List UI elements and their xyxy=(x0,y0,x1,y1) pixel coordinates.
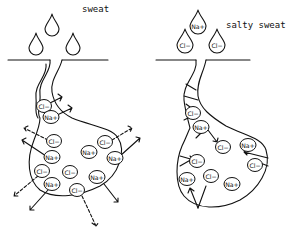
sweat-gland-diagram: sweat salty sweat Na+Cl−Cl− Cl−Na+Cl−Na+… xyxy=(0,0,292,232)
svg-text:Cl−: Cl− xyxy=(48,138,59,145)
chloride-ion: Cl− xyxy=(204,170,219,183)
sodium-ion: Na+ xyxy=(44,151,60,164)
sodium-ion: Na+ xyxy=(81,146,97,159)
svg-text:Na+: Na+ xyxy=(180,176,194,183)
chloride-ion: Cl− xyxy=(47,135,62,148)
svg-text:Na+: Na+ xyxy=(108,155,122,162)
svg-text:Cl−: Cl− xyxy=(191,158,202,165)
svg-text:Cl−: Cl− xyxy=(36,168,47,175)
chloride-ion: Cl− xyxy=(186,107,201,120)
svg-text:Na+: Na+ xyxy=(194,124,208,131)
sodium-ion: Na+ xyxy=(240,139,256,152)
svg-text:Na+: Na+ xyxy=(45,181,59,188)
sweat-drop: Cl− xyxy=(209,29,225,53)
chloride-ion: Cl− xyxy=(190,155,205,168)
svg-text:Na+: Na+ xyxy=(90,174,104,181)
svg-text:Cl−: Cl− xyxy=(217,144,228,151)
sodium-ion: Na+ xyxy=(193,121,209,134)
svg-text:Cl−: Cl− xyxy=(64,169,75,176)
sodium-ion: Na+ xyxy=(107,152,123,165)
sodium-ion: Na+ xyxy=(89,171,105,184)
svg-text:Na+: Na+ xyxy=(45,154,59,161)
svg-text:Na+: Na+ xyxy=(225,181,239,188)
sweat-drop xyxy=(66,33,80,55)
svg-text:Cl−: Cl− xyxy=(187,110,198,117)
sweat-drop: Na+ xyxy=(190,10,206,34)
chloride-ion: Cl− xyxy=(70,184,85,197)
chloride-ion: Cl− xyxy=(216,141,231,154)
chloride-ion: Cl− xyxy=(63,166,78,179)
sodium-ion: Na+ xyxy=(44,178,60,191)
sweat-drop xyxy=(45,14,59,36)
svg-text:Na+: Na+ xyxy=(82,149,96,156)
chloride-ion: Cl− xyxy=(98,136,113,149)
svg-text:Cl−: Cl− xyxy=(205,173,216,180)
svg-text:Cl−: Cl− xyxy=(38,103,49,110)
chloride-ion: Cl− xyxy=(248,159,263,172)
sodium-ion: Na+ xyxy=(179,173,195,186)
svg-text:Cl−: Cl− xyxy=(71,187,82,194)
svg-text:Cl−: Cl− xyxy=(249,162,260,169)
sodium-ion-label: Na+ xyxy=(191,23,205,30)
chloride-ion-label: Cl− xyxy=(211,42,222,49)
svg-text:Cl−: Cl− xyxy=(99,139,110,146)
salty-sweat-label: salty sweat xyxy=(226,20,286,30)
svg-text:Na+: Na+ xyxy=(241,142,255,149)
sodium-ion: Na+ xyxy=(43,111,59,124)
chloride-ion: Cl− xyxy=(35,165,50,178)
sodium-ion: Na+ xyxy=(224,178,240,191)
sweat-drop: Cl− xyxy=(177,29,193,53)
svg-text:Na+: Na+ xyxy=(44,114,58,121)
sweat-drop xyxy=(29,33,43,55)
sweat-label: sweat xyxy=(82,4,109,14)
chloride-ion-label: Cl− xyxy=(179,42,190,49)
